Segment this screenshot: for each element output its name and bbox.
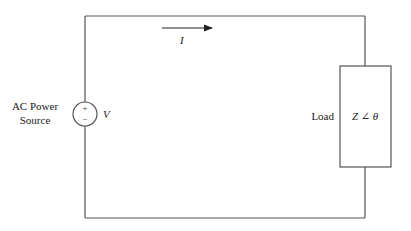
source-label-line2: Source — [20, 114, 51, 126]
circuit-diagram: + − AC Power Source V I Load Z ∠ θ — [0, 0, 411, 231]
voltage-symbol: V — [103, 108, 111, 120]
impedance-label: Z ∠ θ — [352, 110, 379, 122]
ac-source: + − — [73, 102, 97, 126]
minus-sign: − — [83, 115, 88, 124]
current-symbol: I — [179, 34, 185, 46]
plus-sign: + — [83, 104, 88, 113]
source-label-line1: AC Power — [12, 100, 58, 112]
load-label: Load — [311, 110, 334, 122]
